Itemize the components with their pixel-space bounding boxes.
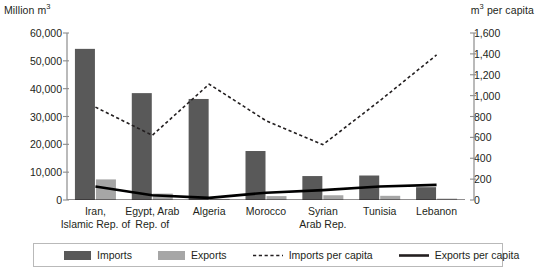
bar-imports — [416, 187, 436, 200]
category-label-line: Islamic Rep. of — [61, 218, 130, 231]
category-label-line: Tunisia — [363, 205, 396, 218]
legend-items: ImportsExportsImports per capitaExports … — [34, 244, 502, 266]
category-label-line: Iran, — [61, 205, 130, 218]
right-axis-tick: 600 — [474, 132, 492, 143]
right-axis-tick: 800 — [474, 111, 492, 122]
legend-item[interactable]: Imports — [64, 249, 132, 261]
category-label-line: Algeria — [193, 205, 226, 218]
legend-swatch-imports-icon — [64, 251, 91, 260]
left-axis-tick: 60,000 — [30, 28, 62, 39]
category-label: Morocco — [246, 205, 286, 218]
bar-exports — [323, 195, 343, 200]
left-axis-tick: 40,000 — [30, 83, 62, 94]
right-axis-tick: 1,000 — [474, 90, 500, 101]
category-label: Lebanon — [416, 205, 457, 218]
bar-imports — [132, 93, 152, 200]
bar-imports — [302, 176, 322, 200]
right-axis-tick: 1,400 — [474, 49, 500, 60]
legend-item[interactable]: Imports per capita — [253, 249, 373, 261]
category-label: Egypt, ArabRep. of — [125, 205, 179, 230]
left-axis-tick: 10,000 — [30, 167, 62, 178]
left-axis-tick-labels: 010,00020,00030,00040,00050,00060,000 — [0, 0, 62, 278]
legend-label: Exports — [191, 249, 227, 261]
right-axis-tick: 1,600 — [474, 28, 500, 39]
category-label: Tunisia — [363, 205, 396, 218]
left-axis-tick: 0 — [56, 195, 62, 206]
right-axis-tick: 200 — [474, 174, 492, 185]
category-label: SyrianArab Rep. — [299, 205, 346, 230]
plot-svg — [67, 33, 465, 200]
legend-label: Imports per capita — [289, 249, 373, 261]
category-label-line: Egypt, Arab — [125, 205, 179, 218]
legend-item[interactable]: Exports per capita — [399, 249, 520, 261]
legend-label: Exports per capita — [435, 249, 520, 261]
legend-item[interactable]: Exports — [158, 249, 227, 261]
legend-dashed-line-icon — [253, 251, 283, 260]
category-label-line: Arab Rep. — [299, 218, 346, 231]
category-label: Iran,Islamic Rep. of — [61, 205, 130, 230]
legend-solid-line-icon — [399, 251, 429, 260]
chart-container: Million m3 m3 per capita 010,00020,00030… — [0, 0, 538, 278]
bar-exports — [267, 196, 287, 200]
plot-area — [67, 33, 465, 200]
category-label-line: Morocco — [246, 205, 286, 218]
legend-swatch-exports-icon — [158, 251, 185, 260]
right-axis-tick-labels: 02004006008001,0001,2001,4001,600 — [474, 0, 536, 278]
left-axis-tick: 20,000 — [30, 139, 62, 150]
category-label-line: Lebanon — [416, 205, 457, 218]
bar-exports — [380, 196, 400, 200]
category-label: Algeria — [193, 205, 226, 218]
category-label-line: Rep. of — [125, 218, 179, 231]
left-axis-tick: 30,000 — [30, 111, 62, 122]
right-axis-tick: 1,200 — [474, 70, 500, 81]
bar-imports — [75, 49, 95, 200]
right-axis-tick: 0 — [474, 195, 480, 206]
chart-legend: ImportsExportsImports per capitaExports … — [33, 243, 503, 267]
left-axis-tick: 50,000 — [30, 56, 62, 67]
category-label-line: Syrian — [299, 205, 346, 218]
bar-imports — [189, 99, 209, 200]
right-axis-tick: 400 — [474, 153, 492, 164]
legend-label: Imports — [97, 249, 132, 261]
